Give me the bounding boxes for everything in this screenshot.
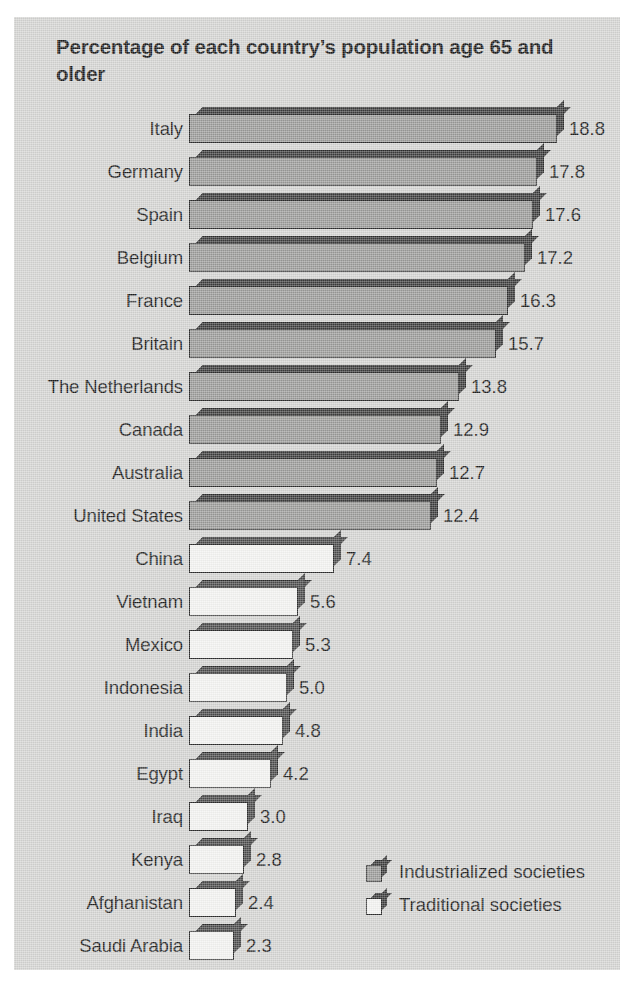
bar-traditional (189, 881, 243, 919)
category-label: Iraq (14, 802, 183, 832)
bar-top-face (196, 494, 445, 501)
value-label: 18.8 (569, 114, 605, 143)
bar-industrialized (189, 451, 444, 489)
bar-front-face (189, 544, 334, 573)
bar-front-face (189, 759, 271, 788)
bar-traditional (189, 924, 241, 962)
bar-front-face (189, 458, 437, 487)
bar-row: Australia12.7 (14, 451, 620, 494)
bar-industrialized (189, 322, 503, 360)
bar-side-face (496, 315, 503, 351)
legend-label-industrialized: Industrialized societies (399, 855, 585, 888)
category-label: China (14, 544, 183, 574)
bar-row: Britain15.7 (14, 322, 620, 365)
category-label: Britain (14, 329, 183, 359)
bar-side-face (283, 702, 290, 738)
bar-side-face (234, 917, 241, 953)
value-label: 5.6 (310, 587, 336, 616)
bar-side-face (244, 831, 251, 867)
value-label: 2.4 (248, 888, 274, 917)
bar-industrialized (189, 279, 515, 317)
bar-traditional (189, 752, 278, 790)
bar-row: Egypt4.2 (14, 752, 620, 795)
bar-top-face (196, 365, 473, 372)
bar-side-face (437, 444, 444, 480)
bar-front-face (189, 501, 431, 530)
bar-top-face (196, 107, 571, 114)
bar-top-face (196, 193, 547, 200)
value-label: 4.2 (283, 759, 309, 788)
value-label: 5.3 (305, 630, 331, 659)
bar-top-face (196, 236, 539, 243)
legend-swatch-industrialized-icon (366, 860, 386, 882)
bar-side-face (298, 573, 305, 609)
category-label: Saudi Arabia (14, 931, 183, 961)
bar-side-face (459, 358, 466, 394)
bar-row: Germany17.8 (14, 150, 620, 193)
bar-front-face (189, 845, 244, 874)
bar-row: Indonesia5.0 (14, 666, 620, 709)
chart-figure: Percentage of each country’s population … (14, 17, 620, 970)
bar-row: Mexico5.3 (14, 623, 620, 666)
category-label: Australia (14, 458, 183, 488)
plot-area: Italy18.8Germany17.8Spain17.6Belgium17.2… (14, 17, 620, 970)
bar-row: Iraq3.0 (14, 795, 620, 838)
bar-side-face (236, 874, 243, 910)
bar-top-face (196, 709, 297, 716)
bar-traditional (189, 580, 305, 618)
bar-front-face (189, 114, 557, 143)
value-label: 2.8 (256, 845, 282, 874)
category-label: Canada (14, 415, 183, 445)
bar-side-face (508, 272, 515, 308)
bar-row: Spain17.6 (14, 193, 620, 236)
bar-side-face (248, 788, 255, 824)
value-label: 12.4 (443, 501, 479, 530)
bar-front-face (189, 888, 236, 917)
category-label: The Netherlands (14, 372, 183, 402)
bar-side-face (334, 530, 341, 566)
bar-row: China7.4 (14, 537, 620, 580)
bar-row: Vietnam5.6 (14, 580, 620, 623)
bar-top-face (196, 451, 451, 458)
bar-top-face (196, 666, 301, 673)
bar-industrialized (189, 150, 544, 188)
bar-front-face (189, 587, 298, 616)
legend-swatch-traditional-icon (366, 893, 386, 915)
bar-front-face (189, 372, 459, 401)
bar-front-face (189, 200, 533, 229)
bar-industrialized (189, 365, 466, 403)
bar-side-face (287, 659, 294, 695)
bar-side-face (293, 616, 300, 652)
bar-front-face (189, 415, 441, 444)
value-label: 17.2 (537, 243, 573, 272)
bar-row: United States12.4 (14, 494, 620, 537)
bar-side-face (525, 229, 532, 265)
bar-front-face (189, 802, 248, 831)
bar-row: France16.3 (14, 279, 620, 322)
category-label: Egypt (14, 759, 183, 789)
category-label: France (14, 286, 183, 316)
bar-front-face (189, 673, 287, 702)
category-label: Mexico (14, 630, 183, 660)
bar-front-face (189, 630, 293, 659)
bar-front-face (189, 243, 525, 272)
value-label: 17.6 (545, 200, 581, 229)
bar-row: India4.8 (14, 709, 620, 752)
value-label: 12.7 (449, 458, 485, 487)
bar-industrialized (189, 236, 532, 274)
value-label: 5.0 (299, 673, 325, 702)
value-label: 13.8 (471, 372, 507, 401)
category-label: Vietnam (14, 587, 183, 617)
bar-side-face (533, 186, 540, 222)
category-label: Germany (14, 157, 183, 187)
bar-front-face (189, 716, 283, 745)
bar-traditional (189, 666, 294, 704)
category-label: Kenya (14, 845, 183, 875)
chart-legend: Industrialized societies Traditional soc… (366, 855, 616, 921)
value-label: 4.8 (295, 716, 321, 745)
bar-row: The Netherlands13.8 (14, 365, 620, 408)
bar-top-face (196, 537, 348, 544)
value-label: 3.0 (260, 802, 286, 831)
category-label: India (14, 716, 183, 746)
bar-industrialized (189, 107, 564, 145)
